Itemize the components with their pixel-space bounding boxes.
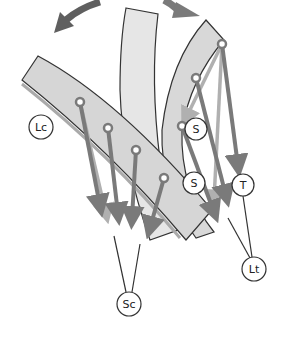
label-sc: Sc <box>117 292 141 316</box>
svg-text:S: S <box>191 177 198 190</box>
rotation-arrow-right-icon <box>164 0 200 18</box>
muscle-force-diagram: Lc S S T Lt Sc <box>0 0 284 339</box>
svg-text:Lt: Lt <box>249 263 260 276</box>
label-lt: Lt <box>242 257 266 281</box>
svg-text:T: T <box>239 179 247 192</box>
label-lc: Lc <box>29 115 53 139</box>
label-s-upper: S <box>185 118 207 140</box>
label-s-lower: S <box>183 172 205 194</box>
svg-text:S: S <box>193 123 200 136</box>
label-t: T <box>232 174 254 196</box>
rotation-arrow-left-icon <box>54 2 100 33</box>
svg-text:Lc: Lc <box>35 121 47 134</box>
svg-text:Sc: Sc <box>122 298 135 311</box>
